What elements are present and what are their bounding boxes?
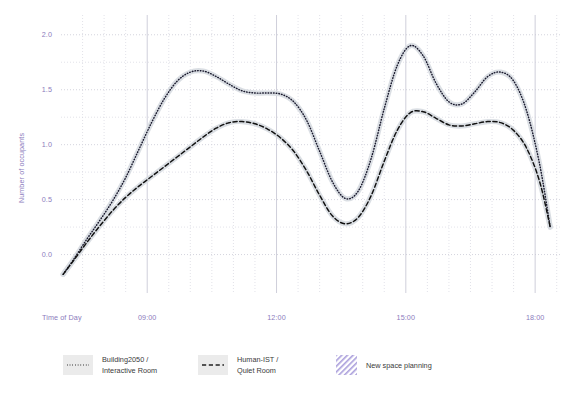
confidence-band-2	[63, 111, 550, 275]
y-tick-label: 0.0	[42, 250, 52, 259]
legend-label: Quiet Room	[237, 366, 276, 375]
legend-label: Building2050 /	[102, 355, 149, 364]
y-axis-title: Number of occupants	[17, 133, 26, 204]
y-tick-label: 1.0	[42, 140, 52, 149]
legend-label: New space planning	[366, 361, 432, 370]
x-tick-label: 09:00	[138, 313, 157, 322]
x-tick-label: 12:00	[267, 313, 286, 322]
chart-legend: Building2050 /Interactive RoomHuman-IST …	[63, 355, 432, 375]
y-tick-label: 0.5	[42, 195, 52, 204]
y-tick-label: 2.0	[42, 30, 52, 39]
y-tick-label: 1.5	[42, 85, 52, 94]
y-axis-tick-labels: 0.00.51.01.52.0	[42, 30, 52, 259]
legend-label: Human-IST /	[237, 355, 279, 364]
legend-label: Interactive Room	[102, 366, 157, 375]
x-tick-label: 15:00	[397, 313, 416, 322]
x-axis-title: Time of Day	[42, 313, 82, 322]
x-tick-label: 18:00	[526, 313, 545, 322]
x-axis-tick-labels: 09:0012:0015:0018:00	[138, 313, 544, 322]
series-line-2	[63, 111, 550, 275]
chart-canvas: 0.00.51.01.52.0 09:0012:0015:0018:00 Num…	[0, 0, 581, 399]
confidence-bands	[63, 45, 550, 274]
occupancy-chart: 0.00.51.01.52.0 09:0012:0015:0018:00 Num…	[0, 0, 581, 399]
hatch-swatch-icon	[336, 355, 357, 375]
major-gridlines-y	[61, 35, 561, 255]
legend-item[interactable]: Human-IST /Quiet Room	[198, 355, 279, 375]
legend-item[interactable]: New space planning	[336, 355, 432, 375]
legend-item[interactable]: Building2050 /Interactive Room	[63, 355, 157, 375]
confidence-band-1	[63, 45, 550, 274]
